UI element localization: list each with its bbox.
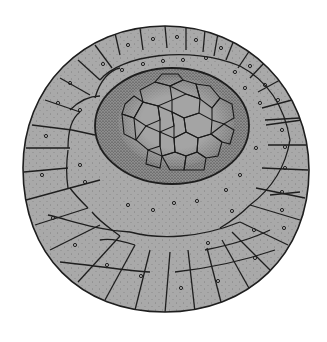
inner-cell-mass <box>95 68 249 184</box>
illustration <box>0 0 327 342</box>
embryo-illustration <box>0 0 327 342</box>
